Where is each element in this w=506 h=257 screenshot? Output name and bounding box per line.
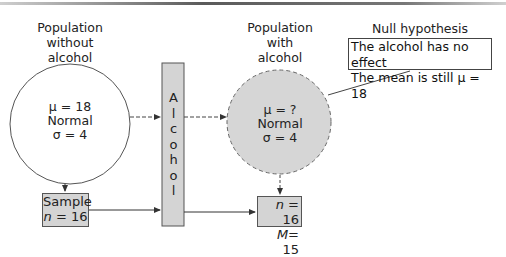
null-hypothesis-box: The alcohol has no effect The mean is st… xyxy=(348,38,492,70)
result-mean: M= 15 xyxy=(258,227,299,257)
letter: o xyxy=(162,168,185,184)
param-shape: Normal xyxy=(240,117,320,131)
n-symbol: n xyxy=(276,197,284,212)
right-population-params: μ = ? Normal σ = 4 xyxy=(240,103,320,145)
n-symbol: n xyxy=(44,209,52,224)
title-line: alcohol xyxy=(20,50,120,65)
m-symbol: M xyxy=(277,227,288,242)
sample-box: Sample n = 16 xyxy=(42,193,89,227)
param-mean: μ = ? xyxy=(240,103,320,117)
null-line: The alcohol has no effect xyxy=(351,39,491,70)
result-box: n = 16 M= 15 xyxy=(257,196,302,227)
letter: l xyxy=(162,183,185,199)
title-line: alcohol xyxy=(230,50,330,65)
letter: A xyxy=(162,90,185,106)
right-population-title: Population with alcohol xyxy=(230,20,330,65)
title-line: Population xyxy=(230,20,330,35)
sample-label: Sample xyxy=(43,194,88,209)
title-line: without xyxy=(20,35,120,50)
result-n: n = 16 xyxy=(258,197,299,227)
null-hypothesis-title: Null hypothesis xyxy=(348,21,492,36)
title-line: with xyxy=(230,35,330,50)
param-sd: σ = 4 xyxy=(30,128,110,142)
null-line: The mean is still μ = 18 xyxy=(351,70,491,101)
param-shape: Normal xyxy=(30,114,110,128)
letter: l xyxy=(162,106,185,122)
param-sd: σ = 4 xyxy=(240,131,320,145)
n-value: = 16 xyxy=(282,197,299,227)
letter: o xyxy=(162,137,185,153)
sample-size: n = 16 xyxy=(43,209,88,224)
alcohol-label: A l c o h o l xyxy=(162,90,185,199)
letter: h xyxy=(162,152,185,168)
n-value: = 16 xyxy=(52,209,88,224)
left-population-title: Population without alcohol xyxy=(20,20,120,65)
param-mean: μ = 18 xyxy=(30,100,110,114)
title-line: Population xyxy=(20,20,120,35)
left-population-params: μ = 18 Normal σ = 4 xyxy=(30,100,110,142)
letter: c xyxy=(162,121,185,137)
